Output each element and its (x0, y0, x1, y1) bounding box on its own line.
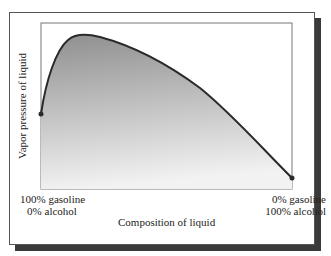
x-tick-right-line2: 100% alcohol (258, 205, 326, 217)
x-tick-right: 0% gasoline 100% alcohol (258, 193, 326, 217)
x-tick-left: 100% gasoline 0% alcohol (20, 193, 84, 217)
x-axis-label: Composition of liquid (118, 216, 215, 228)
endpoint-marker-left (39, 112, 44, 117)
vapor-pressure-area (41, 35, 292, 189)
endpoint-marker-right (290, 176, 295, 181)
x-tick-left-line2: 0% alcohol (20, 205, 84, 217)
x-tick-right-line1: 0% gasoline (258, 193, 326, 205)
x-tick-left-line1: 100% gasoline (20, 193, 84, 205)
y-axis-label-text: Vapor pressure of liquid (16, 53, 28, 159)
